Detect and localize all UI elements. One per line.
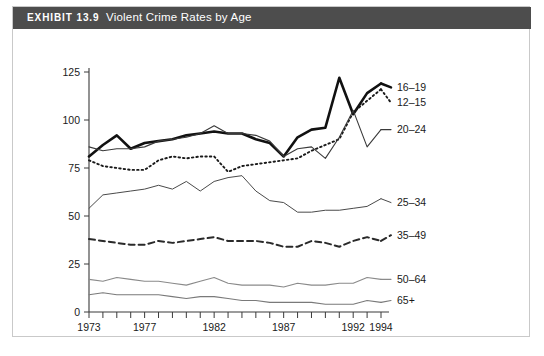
x-tick-label: 1994 [369,321,393,333]
legend-label-2024: 20–24 [397,123,426,135]
y-tick-label: 50 [68,210,80,222]
line-chart: 0255075100125 197319771982198719921994 1… [13,29,531,337]
series-line-65+ [89,293,381,305]
x-tick-label: 1992 [342,321,366,333]
exhibit-number-label: EXHIBIT 13.9 [27,12,100,23]
exhibit-title-bar: EXHIBIT 13.9 Violent Crime Rates by Age [13,7,531,29]
x-tick-label: 1982 [202,321,226,333]
y-tick-label: 25 [68,258,80,270]
x-tick-label: 1987 [272,321,296,333]
y-axis: 0255075100125 [62,66,89,318]
legend-leader-2534 [381,199,391,203]
x-tick-label: 1977 [133,321,157,333]
legend-leader-1215 [381,89,391,102]
legend-leader-3549 [381,235,391,241]
series-lines [89,78,381,305]
series-line-1619 [89,78,381,157]
legend-label-1619: 16–19 [397,81,426,93]
bottom-ghost-text [14,345,494,354]
chart-plot-area: 0255075100125 197319771982198719921994 1… [13,29,531,337]
legend-label-3549: 35–49 [397,229,426,241]
series-line-5064 [89,277,381,287]
chart-legend: 16–1912–1520–2425–3435–4950–6465+ [381,81,426,306]
x-axis: 197319771982198719921994 [77,312,393,333]
exhibit-name-label: Violent Crime Rates by Age [106,11,252,23]
page-title: EXHIBIT 13.9 Violent Crime Rates by Age [27,11,252,23]
legend-label-1215: 12–15 [397,96,426,108]
y-tick-label: 100 [62,114,80,126]
series-line-3549 [89,237,381,247]
legend-label-65+: 65+ [397,294,415,306]
legend-label-5064: 50–64 [397,273,426,285]
y-tick-label: 75 [68,162,80,174]
x-tick-label: 1973 [77,321,101,333]
legend-leader-65+ [381,300,391,302]
exhibit-frame: EXHIBIT 13.9 Violent Crime Rates by Age … [12,6,530,337]
legend-leader-1619 [381,84,391,88]
y-tick-label: 125 [62,66,80,78]
series-line-1215 [89,89,381,172]
legend-label-2534: 25–34 [397,196,426,208]
y-tick-label: 0 [74,306,80,318]
series-line-2534 [89,176,381,212]
